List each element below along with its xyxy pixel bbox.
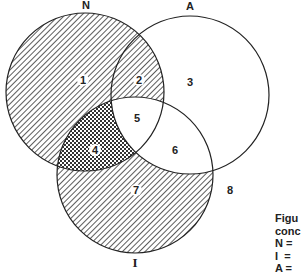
- region-7-label: 7: [133, 184, 139, 196]
- set-label-a: A: [186, 0, 194, 12]
- caption-line-a: A =: [275, 262, 301, 275]
- caption-line-1: Figu: [275, 212, 301, 225]
- region-5-label: 5: [134, 112, 140, 124]
- region-6-label: 6: [172, 144, 178, 156]
- region-2-label: 2: [136, 74, 142, 86]
- caption-line-i: I =: [275, 250, 301, 263]
- set-label-i: I: [132, 255, 137, 270]
- set-label-n: N: [82, 0, 90, 11]
- region-3-label: 3: [187, 76, 193, 88]
- region-1-label: 1: [80, 74, 86, 86]
- caption-line-n: N =: [275, 237, 301, 250]
- region-4-label: 4: [92, 144, 99, 156]
- region-8-label: 8: [227, 184, 233, 196]
- figure-caption: Figu conc N = I = A =: [275, 212, 301, 275]
- caption-line-2: conc: [275, 225, 301, 238]
